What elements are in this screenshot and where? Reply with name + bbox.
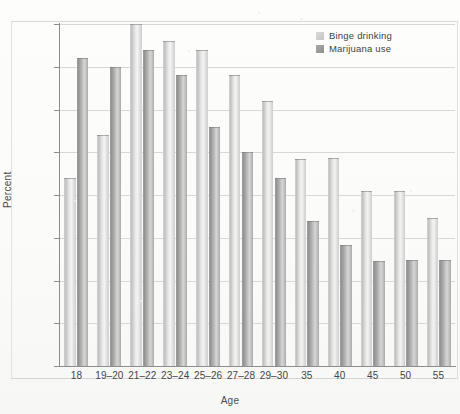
bar-marijuana-use	[439, 260, 450, 366]
bar-binge-drinking	[361, 191, 372, 366]
bar-binge-drinking	[328, 158, 339, 366]
bar-binge-drinking	[196, 50, 207, 366]
legend-item-binge-drinking: Binge drinking	[316, 29, 392, 42]
bar-marijuana-use	[275, 178, 286, 366]
plot-area	[60, 24, 455, 366]
legend-swatch-icon-binge-drinking	[316, 32, 324, 40]
bar-marijuana-use	[307, 221, 318, 366]
bar-binge-drinking	[130, 24, 141, 366]
bar-binge-drinking	[427, 218, 438, 366]
bar-binge-drinking	[229, 75, 240, 366]
bars-group	[60, 24, 455, 366]
bar-marijuana-use	[110, 67, 121, 366]
legend-label-marijuana-use: Marijuana use	[329, 42, 391, 55]
legend-item-marijuana-use: Marijuana use	[316, 42, 392, 55]
bar-binge-drinking	[163, 41, 174, 366]
bar-marijuana-use	[340, 245, 351, 366]
chart-legend: Binge drinking Marijuana use	[316, 29, 392, 55]
figure-frame-right	[457, 21, 458, 379]
bar-binge-drinking	[394, 191, 405, 366]
scan-speckle	[258, 12, 260, 14]
legend-swatch-icon-marijuana-use	[316, 45, 324, 53]
scan-speckle	[300, 18, 303, 20]
bar-binge-drinking	[64, 178, 75, 366]
y-axis-tick	[54, 366, 60, 367]
bar-marijuana-use	[143, 50, 154, 366]
bar-marijuana-use	[209, 127, 220, 366]
bar-binge-drinking	[262, 101, 273, 366]
bar-marijuana-use	[373, 261, 384, 366]
bar-marijuana-use	[242, 152, 253, 366]
bar-marijuana-use	[406, 260, 417, 366]
legend-label-binge-drinking: Binge drinking	[329, 29, 392, 42]
bar-binge-drinking	[97, 135, 108, 366]
x-axis-line	[59, 366, 456, 367]
bar-chart-figure: Percent Age 0510152025303540 1819–2021–2…	[0, 0, 460, 414]
bar-marijuana-use	[77, 58, 88, 366]
x-axis-title: Age	[0, 395, 460, 406]
x-tick-label: 55	[409, 370, 460, 381]
figure-frame-top	[11, 21, 458, 22]
bar-marijuana-use	[176, 75, 187, 366]
y-axis-title: Percent	[2, 171, 13, 208]
bar-binge-drinking	[295, 159, 306, 366]
